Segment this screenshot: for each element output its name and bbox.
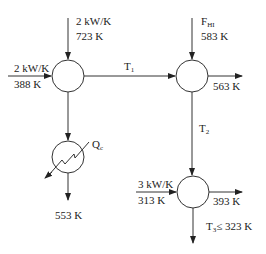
mixer1-top-flow-label: 2 kW/K — [76, 15, 111, 27]
cooler-outlet-temp-label: 553 K — [55, 209, 82, 221]
mixer1-top-temp-label: 723 K — [76, 30, 103, 42]
mixer3-left-temp-label: 313 K — [138, 194, 165, 206]
mixer3-outlet-temp-label: 393 K — [213, 195, 240, 207]
cooler-duty-label: Qc — [92, 138, 103, 152]
mixer2-top-temp-label: 583 K — [201, 30, 228, 42]
mixer1-left-flow-label: 2 kW/K — [14, 62, 49, 74]
mixer2-outlet-temp-label: 563 K — [213, 80, 240, 92]
cooler-node — [52, 141, 84, 173]
mixer2-node — [176, 60, 208, 92]
heat-exchanger-network-diagram: 2 kW/K 723 K 2 kW/K 388 K T1 Qc 553 K FH… — [0, 0, 266, 254]
mixer3-left-flow-label: 3 kW/K — [138, 178, 173, 190]
mixer1-left-temp-label: 388 K — [14, 78, 41, 90]
mixer3-node — [177, 176, 209, 208]
t1-label: T1 — [124, 60, 135, 74]
mixer2-top-flow-label: FHI — [201, 15, 215, 29]
t2-label: T2 — [199, 122, 210, 136]
t3-constraint-label: T3≤ 323 K — [206, 220, 252, 234]
mixer1-node — [52, 60, 84, 92]
